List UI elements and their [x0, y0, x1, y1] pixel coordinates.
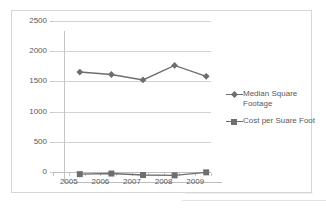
series-1	[76, 62, 209, 83]
plot-series-area	[64, 31, 222, 182]
y-axis-tick-label: 2500	[12, 17, 47, 25]
square-marker	[108, 171, 114, 177]
y-axis-tick	[50, 81, 53, 82]
y-axis-tick-label: 500	[12, 138, 47, 146]
series-2	[77, 169, 209, 178]
y-axis-tick	[50, 51, 53, 52]
diamond-marker-icon	[226, 90, 243, 99]
gridline	[53, 21, 211, 22]
square-marker	[203, 169, 209, 175]
legend-item-median-square-footage[interactable]: Median Square Footage	[226, 89, 326, 109]
y-axis-tick	[50, 21, 53, 22]
legend-label: Median Square Footage	[243, 89, 297, 109]
square-marker	[77, 171, 83, 177]
legend-item-cost-per-suare-foot[interactable]: Cost per Suare Foot	[226, 116, 326, 126]
diamond-marker	[140, 77, 147, 84]
diamond-marker	[203, 73, 210, 80]
y-axis-tick	[50, 142, 53, 143]
square-marker	[140, 172, 146, 178]
y-axis-tick-label: 2000	[12, 47, 47, 55]
square-marker	[172, 172, 178, 178]
y-axis-tick-label: 1500	[12, 77, 47, 85]
square-marker-icon	[226, 117, 243, 126]
diamond-marker	[108, 71, 115, 78]
y-axis-tick-label: 0	[12, 168, 47, 176]
y-axis-tick-label: 1000	[12, 108, 47, 116]
x-axis-minor-tick	[53, 173, 54, 176]
chart-legend: Median Square Footage Cost per Suare Foo…	[226, 89, 326, 133]
page-rule	[182, 200, 326, 201]
page-rule-upper	[186, 193, 314, 194]
chart-frame: 05001000150020002500 2005200620072008200…	[11, 10, 312, 193]
legend-label: Cost per Suare Foot	[243, 116, 315, 126]
diamond-marker	[171, 62, 178, 69]
y-axis-tick	[50, 112, 53, 113]
diamond-marker	[76, 69, 83, 76]
